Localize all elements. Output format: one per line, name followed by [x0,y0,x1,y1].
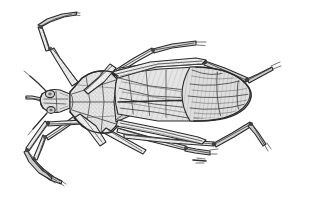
insect-dorsal-view-drawing [0,0,315,206]
joint-knee-left-foreleg [39,25,43,29]
forewing-hemelytron [115,66,251,122]
insect-illustration-figure: true bug (Hemiptera), dorsal view [0,0,315,206]
